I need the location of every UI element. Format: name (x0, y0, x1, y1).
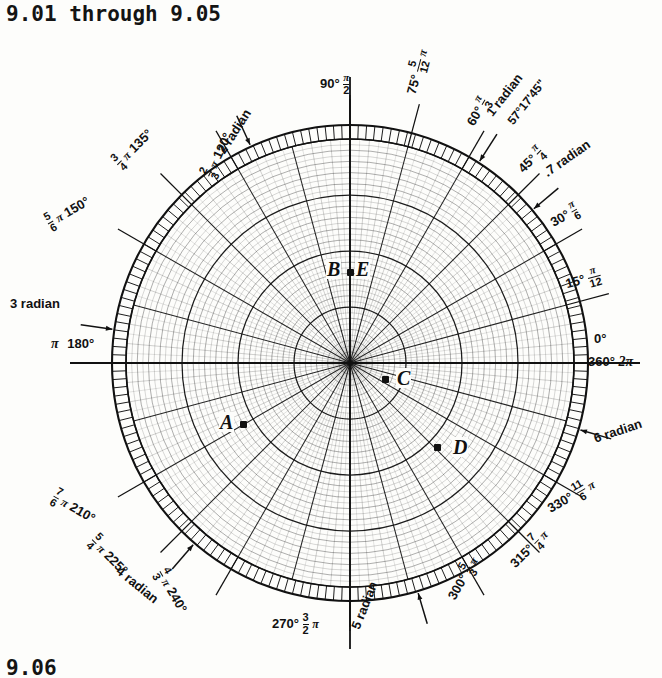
point-label-a: A (219, 412, 234, 432)
page-footer: 9.06 (6, 656, 57, 678)
point-marker-a (240, 421, 247, 428)
point-label-d: D (452, 437, 468, 457)
radian-marker-3: 3 radian (10, 297, 60, 310)
point-label-e: E (355, 259, 370, 279)
axis-label-270: 270° 32 π (272, 613, 319, 637)
point-marker-d (434, 444, 441, 451)
point-label-c: C (396, 368, 411, 388)
axis-label-180: π 180° (51, 337, 94, 351)
axis-label-0: 0° (594, 332, 606, 345)
polar-chart (0, 0, 662, 678)
axis-label-90: 90° π2 (320, 73, 349, 97)
point-marker-c (382, 376, 389, 383)
point-marker-b (347, 269, 354, 276)
point-label-b: B (326, 259, 341, 279)
axis-label-360: 360° 2π (588, 355, 633, 369)
